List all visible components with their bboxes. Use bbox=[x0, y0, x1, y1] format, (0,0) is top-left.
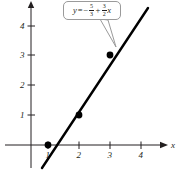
equation-y: y bbox=[73, 6, 77, 15]
fraction-three-halves: 3 2 bbox=[102, 3, 107, 17]
callout-pointer bbox=[100, 19, 116, 47]
x-axis-label: x bbox=[171, 141, 175, 150]
x-axis bbox=[5, 142, 168, 150]
x-tick-label-3: 3 bbox=[108, 151, 113, 160]
fraction-numerator: 5 bbox=[89, 3, 93, 9]
data-point bbox=[45, 142, 52, 149]
data-points bbox=[45, 52, 114, 149]
equation-x: x bbox=[107, 6, 111, 15]
plot-canvas bbox=[0, 0, 183, 175]
data-point bbox=[76, 112, 83, 119]
y-tick-label-4: 4 bbox=[20, 22, 25, 31]
fraction-five-thirds: 5 3 bbox=[89, 3, 94, 17]
fraction-denominator: 3 bbox=[89, 11, 93, 17]
fraction-denominator: 2 bbox=[102, 11, 106, 17]
graph-figure: 1 2 3 4 1 2 3 4 x y y = − 5 3 + 3 2 x bbox=[0, 0, 183, 175]
equation-plus: + bbox=[95, 6, 100, 15]
equation-callout: y = − 5 3 + 3 2 x bbox=[63, 1, 121, 20]
y-tick-label-3: 3 bbox=[20, 51, 25, 60]
equation-equals: = bbox=[78, 6, 83, 15]
fraction-numerator: 3 bbox=[102, 3, 106, 9]
data-point bbox=[107, 52, 114, 59]
x-tick-label-4: 4 bbox=[139, 151, 144, 160]
y-axis bbox=[28, 1, 36, 168]
y-tick-label-2: 2 bbox=[20, 81, 25, 90]
best-fit-line bbox=[42, 8, 148, 168]
x-tick-label-2: 2 bbox=[77, 151, 82, 160]
equation-text: y = − 5 3 + 3 2 x bbox=[73, 4, 111, 18]
equation-minus: − bbox=[84, 6, 89, 15]
y-tick-label-1: 1 bbox=[20, 111, 25, 120]
x-tick-label-1: 1 bbox=[46, 151, 51, 160]
